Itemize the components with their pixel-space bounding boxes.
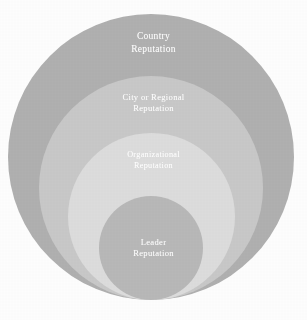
- label-city-or-regional-reputation: City or Regional Reputation: [0, 92, 307, 115]
- nested-reputation-diagram: Country Reputation City or Regional Repu…: [0, 0, 307, 320]
- label-organizational-reputation: Organizational Reputation: [0, 150, 307, 172]
- label-country-reputation: Country Reputation: [0, 30, 307, 55]
- label-leader-reputation: Leader Reputation: [0, 237, 307, 260]
